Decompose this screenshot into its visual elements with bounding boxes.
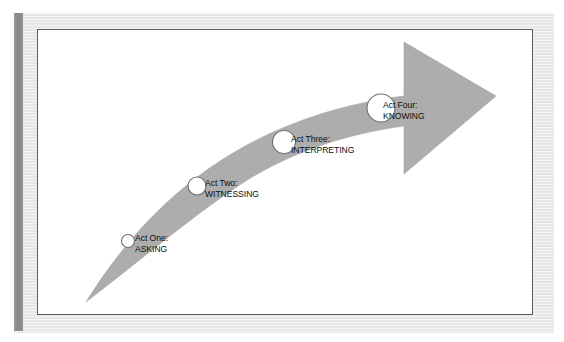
stage-label-act-two-name: WITNESSING (205, 189, 259, 200)
figure-canvas: Act One: ASKING Act Two: WITNESSING Act … (0, 0, 564, 342)
page-spine-shadow-gradient (14, 13, 23, 331)
stage-label-act-three-name: INTERPRETING (291, 145, 354, 156)
curved-arrow-shape (86, 42, 496, 302)
stage-marker-act-one (122, 235, 135, 248)
stage-label-act-three-act: Act Three: (291, 134, 330, 144)
stage-label-act-one: Act One: ASKING (135, 233, 168, 255)
stage-label-act-four-name: KNOWING (383, 111, 425, 122)
stage-marker-act-two (188, 177, 206, 195)
stage-label-act-two-act: Act Two: (205, 178, 237, 188)
stage-label-act-three: Act Three: INTERPRETING (291, 134, 354, 156)
stage-label-act-two: Act Two: WITNESSING (205, 178, 259, 200)
progression-arrow-graphic (38, 30, 533, 315)
stage-label-act-one-name: ASKING (135, 244, 168, 255)
diagram-panel: Act One: ASKING Act Two: WITNESSING Act … (37, 29, 533, 315)
stage-label-act-four: Act Four: KNOWING (383, 100, 425, 122)
stage-label-act-four-act: Act Four: (383, 100, 417, 110)
stage-label-act-one-act: Act One: (135, 233, 168, 243)
